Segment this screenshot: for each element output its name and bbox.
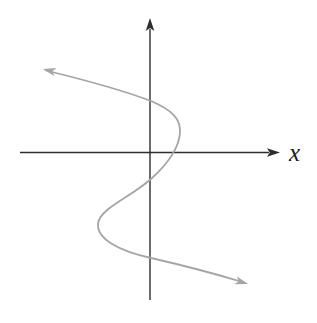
s-curve [46, 71, 244, 283]
curve-diagram: x [0, 0, 317, 323]
x-axis-label: x [288, 139, 300, 166]
figure-canvas: x [0, 0, 317, 323]
